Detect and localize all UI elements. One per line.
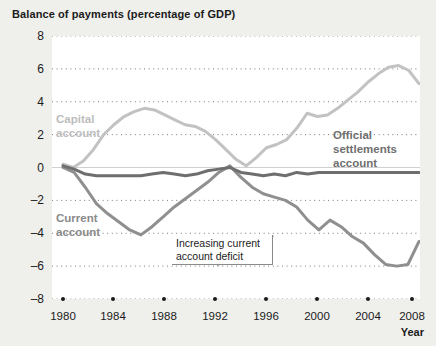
x-tick-dot-1992 bbox=[213, 297, 217, 301]
x-tick-dot-1996 bbox=[264, 297, 268, 301]
x-tick-label-1988: 1988 bbox=[141, 310, 187, 322]
current-label-line2: account bbox=[56, 226, 100, 238]
y-tick-neg4: –4 bbox=[18, 226, 44, 240]
x-axis-title: Year bbox=[401, 326, 424, 338]
current-label-line1: Current bbox=[56, 212, 98, 224]
chart-figure: Balance of payments (percentage of GDP) … bbox=[0, 0, 436, 346]
x-tick-label-1984: 1984 bbox=[90, 310, 136, 322]
capital-label-line1: Capital bbox=[56, 113, 94, 125]
y-tick-0: 0 bbox=[18, 161, 44, 175]
x-tick-label-1992: 1992 bbox=[192, 310, 238, 322]
x-tick-label-1980: 1980 bbox=[40, 310, 86, 322]
y-tick-neg2: –2 bbox=[18, 193, 44, 207]
x-tick-dot-2004 bbox=[366, 297, 370, 301]
x-tick-dot-1984 bbox=[111, 297, 115, 301]
official-label-line2: settlements bbox=[333, 143, 397, 155]
capital-label-line2: account bbox=[56, 127, 100, 139]
x-tick-dot-1980 bbox=[61, 297, 65, 301]
y-tick-neg8: –8 bbox=[18, 292, 44, 306]
page-title: Balance of payments (percentage of GDP) bbox=[12, 8, 235, 20]
annotation-line2: account deficit bbox=[176, 250, 243, 262]
annotation-box: Increasing current account deficit bbox=[172, 235, 273, 265]
x-tick-label-2008: 2008 bbox=[389, 310, 435, 322]
x-tick-label-1996: 1996 bbox=[243, 310, 289, 322]
series-label-current-account: Current account bbox=[56, 211, 100, 239]
official-label-line1: Official bbox=[333, 129, 372, 141]
x-tick-label-2004: 2004 bbox=[345, 310, 391, 322]
x-tick-label-2000: 2000 bbox=[294, 310, 340, 322]
series-label-official-settlements-account: Official settlements account bbox=[333, 128, 397, 170]
annotation-line1: Increasing current bbox=[176, 237, 260, 249]
x-tick-dot-2000 bbox=[315, 297, 319, 301]
y-tick-neg6: –6 bbox=[18, 259, 44, 273]
series-label-capital-account: Capital account bbox=[56, 112, 100, 140]
y-tick-6: 6 bbox=[18, 62, 44, 76]
x-tick-dot-2008 bbox=[410, 297, 414, 301]
y-tick-8: 8 bbox=[18, 29, 44, 43]
y-tick-2: 2 bbox=[18, 128, 44, 142]
x-tick-dot-1988 bbox=[162, 297, 166, 301]
official-label-line3: account bbox=[333, 157, 377, 169]
y-tick-4: 4 bbox=[18, 95, 44, 109]
